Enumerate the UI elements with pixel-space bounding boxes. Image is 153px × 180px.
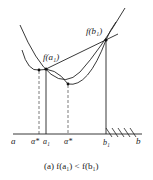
label-b1: b₁ [103,138,110,147]
point-right-min [67,83,70,86]
label-alpha-star-right: α* [64,137,72,146]
label-a: a [11,136,16,146]
label-f-b1: f(b₁) [86,26,102,36]
hatch-marks [106,128,136,137]
diagram-canvas: f(a₁) f(b₁) a α* a₁ α* b₁ b (a) f(a₁) < … [0,0,153,180]
point-f-b1 [104,38,107,41]
label-alpha-star-left: α* [31,137,39,146]
caption: (a) f(a₁) < f(b₁) [44,161,99,171]
label-f-a1: f(a₁) [43,52,59,62]
label-b: b [136,136,141,146]
point-f-a1 [44,67,47,70]
point-left-min [38,69,41,72]
label-a1: a₁ [43,137,50,146]
curve-steep [20,8,125,80]
